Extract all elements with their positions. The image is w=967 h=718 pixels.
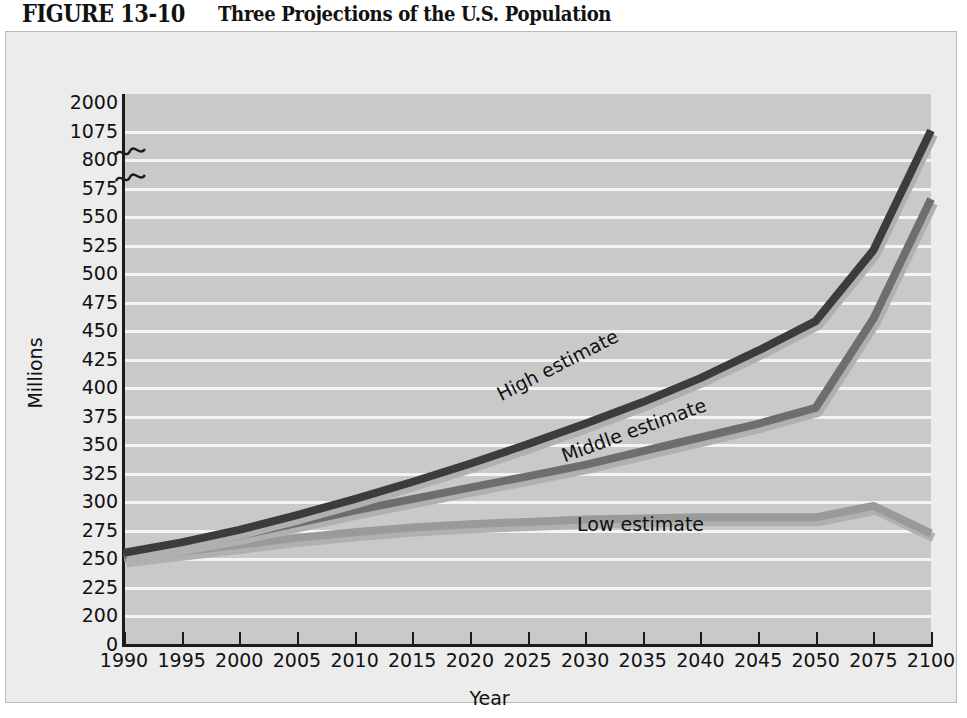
figure-number: FIGURE 13-10 [22, 0, 185, 28]
figure-caption: Three Projections of the U.S. Population [218, 1, 611, 26]
series-shadow-high [127, 135, 934, 557]
chart-series-svg [6, 32, 958, 704]
series-line-high [124, 130, 931, 552]
series-label-low: Low estimate [577, 513, 704, 535]
figure-frame: 2000107580057555052550047545042540037535… [5, 31, 957, 703]
figure-title: FIGURE 13-10 Three Projections of the U.… [22, 0, 675, 28]
